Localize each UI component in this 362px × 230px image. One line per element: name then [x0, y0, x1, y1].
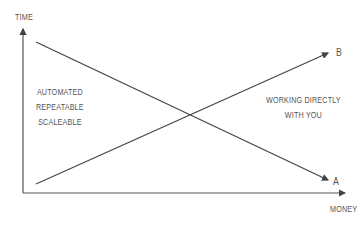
line-a-label: A [333, 175, 339, 187]
left-region-text: AUTOMATED REPEATABLE SCALEABLE [36, 85, 84, 130]
right-region-text: WORKING DIRECTLY WITH YOU [266, 93, 341, 123]
x-axis-label: MONEY [330, 204, 357, 214]
line-b-label: B [336, 46, 342, 58]
y-axis-label: TIME [15, 12, 33, 22]
